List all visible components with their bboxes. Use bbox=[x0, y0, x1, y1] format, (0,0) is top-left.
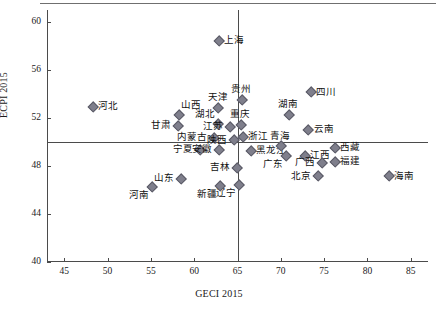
data-point-label: 海南 bbox=[394, 172, 414, 182]
data-point-label: 安徽 bbox=[192, 145, 212, 155]
y-axis-line bbox=[47, 10, 48, 262]
x-tick-label: 45 bbox=[60, 267, 70, 277]
data-point-label: 湖南 bbox=[278, 100, 298, 110]
data-point-label: 河北 bbox=[98, 102, 118, 112]
data-point-label: 浙江 bbox=[248, 132, 268, 142]
data-point-label: 福建 bbox=[340, 157, 360, 167]
x-tick-label: 50 bbox=[103, 267, 113, 277]
y-tick-mark bbox=[47, 262, 51, 263]
x-tick-mark bbox=[411, 258, 412, 262]
data-point-label: 天津 bbox=[208, 93, 228, 103]
data-point-label: 云南 bbox=[314, 125, 334, 135]
y-tick-label: 52 bbox=[23, 113, 41, 123]
diamond-marker-icon bbox=[224, 121, 236, 133]
data-point-label: 河南 bbox=[129, 191, 149, 201]
diamond-marker-icon bbox=[214, 144, 226, 156]
x-tick-mark bbox=[64, 258, 65, 262]
data-point-label: 西藏 bbox=[340, 143, 360, 153]
y-tick-mark bbox=[47, 22, 51, 23]
x-tick-mark bbox=[151, 258, 152, 262]
data-point-label: 湖北 bbox=[195, 110, 215, 120]
x-tick-label: 60 bbox=[189, 267, 199, 277]
y-tick-mark bbox=[47, 70, 51, 71]
y-tick-label: 48 bbox=[23, 161, 41, 171]
data-point-label: 北京 bbox=[291, 172, 311, 182]
x-tick-label: 65 bbox=[233, 267, 243, 277]
data-point-label: 吉林 bbox=[210, 163, 230, 173]
data-point-label: 上海 bbox=[224, 36, 244, 46]
x-tick-mark bbox=[108, 258, 109, 262]
diamond-marker-icon bbox=[231, 162, 243, 174]
x-tick-label: 75 bbox=[319, 267, 329, 277]
x-tick-label: 85 bbox=[406, 267, 416, 277]
x-tick-label: 80 bbox=[363, 267, 373, 277]
data-point-label: 四川 bbox=[316, 88, 336, 98]
y-tick-label: 44 bbox=[23, 209, 41, 219]
y-tick-mark bbox=[47, 214, 51, 215]
y-axis-label: ECPI 2015 bbox=[0, 72, 9, 118]
x-tick-mark bbox=[194, 258, 195, 262]
data-point-label: 甘肃 bbox=[151, 121, 171, 131]
data-point-label: 江苏 bbox=[203, 122, 223, 132]
data-point-label: 内蒙古 bbox=[177, 133, 207, 143]
x-tick-mark bbox=[324, 258, 325, 262]
data-point-label: 宁夏 bbox=[173, 145, 193, 155]
data-point-label: 广东 bbox=[263, 160, 283, 170]
y-tick-mark bbox=[47, 166, 51, 167]
x-tick-label: 70 bbox=[276, 267, 286, 277]
y-tick-label: 56 bbox=[23, 65, 41, 75]
x-tick-mark bbox=[238, 258, 239, 262]
y-tick-mark bbox=[47, 118, 51, 119]
x-tick-mark bbox=[367, 258, 368, 262]
scatter-chart-figure: 455055606570758085 404448525660 上海河北山西天津… bbox=[0, 0, 438, 312]
data-point-label: 青海 bbox=[270, 132, 290, 142]
diamond-marker-icon bbox=[172, 120, 184, 132]
data-point-label: 广西 bbox=[295, 158, 315, 168]
diamond-marker-icon bbox=[312, 171, 324, 183]
y-tick-label: 40 bbox=[23, 257, 41, 267]
data-point-label: 重庆 bbox=[230, 110, 250, 120]
diamond-marker-icon bbox=[175, 173, 187, 185]
data-point-label: 贵州 bbox=[231, 85, 251, 95]
diamond-marker-icon bbox=[174, 109, 186, 121]
data-point-label: 山东 bbox=[154, 174, 174, 184]
y-tick-label: 60 bbox=[23, 17, 41, 27]
data-point-label: 新疆 bbox=[197, 190, 217, 200]
x-axis-label: GECI 2015 bbox=[0, 288, 438, 299]
figure-top-rule bbox=[40, 3, 436, 4]
plot-area: 455055606570758085 404448525660 上海河北山西天津… bbox=[47, 10, 428, 262]
diamond-marker-icon bbox=[283, 109, 295, 121]
x-tick-mark bbox=[281, 258, 282, 262]
x-tick-label: 55 bbox=[146, 267, 156, 277]
